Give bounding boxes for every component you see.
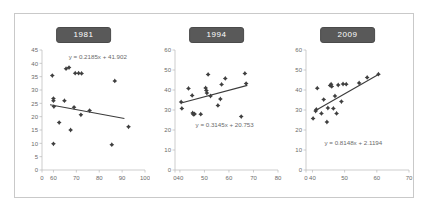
regression-equation-label: y = 0.2185x + 41.902: [69, 53, 128, 60]
data-point-marker: [179, 106, 184, 111]
data-point-marker: [204, 91, 209, 96]
chart-panel-2009: 2009 0102030405060040506070y = 0.8148x +…: [281, 14, 414, 199]
data-point-marker: [219, 82, 224, 87]
x-tick-label: 70: [73, 175, 80, 181]
trend-line: [181, 85, 247, 103]
y-tick-label: 60: [295, 47, 302, 53]
chart-title-badge: 1981: [56, 27, 112, 43]
x-tick-label: 90: [119, 175, 126, 181]
data-point-marker: [57, 120, 62, 125]
trend-line: [50, 105, 124, 119]
data-point-marker: [198, 112, 203, 117]
data-point-marker: [334, 111, 339, 116]
data-point-marker: [218, 97, 223, 102]
y-tick-label: 40: [295, 87, 302, 93]
regression-equation-label: y = 0.8148x + 2.1194: [325, 139, 383, 146]
x-tick-label: 70: [406, 175, 413, 181]
data-point-marker: [315, 86, 320, 91]
x-tick-label: 60: [50, 175, 57, 181]
data-point-marker: [331, 106, 336, 111]
data-point-marker: [50, 73, 55, 78]
y-tick-label: 20: [31, 114, 38, 120]
plot-svg-1994: 010203040506004050607080y = 0.3145x + 20…: [150, 44, 283, 194]
y-tick-label: 0: [168, 167, 172, 173]
y-tick-label: 40: [164, 87, 171, 93]
data-point-marker: [126, 124, 131, 129]
data-point-marker: [319, 111, 324, 116]
x-tick-label: 60: [373, 175, 380, 181]
data-point-marker: [109, 142, 114, 147]
figure-frame: 1981 051015202530354045060708090100y = 0…: [14, 13, 414, 198]
y-tick-label: 45: [31, 47, 38, 53]
y-tick-label: 30: [164, 107, 171, 113]
y-tick-label: 15: [31, 127, 38, 133]
y-tick-label: 0: [299, 167, 303, 173]
data-point-marker: [62, 98, 67, 103]
data-point-marker: [79, 112, 84, 117]
data-point-marker: [311, 116, 316, 121]
trend-line: [317, 74, 378, 109]
regression-equation-label: y = 0.3145x + 20.753: [196, 121, 255, 128]
data-point-marker: [51, 141, 56, 146]
scatter-plot-2009: 0102030405060040506070y = 0.8148x + 2.11…: [281, 44, 414, 199]
y-tick-label: 40: [31, 61, 38, 67]
data-point-marker: [68, 128, 73, 133]
data-point-marker: [336, 83, 341, 88]
chart-panel-1994: 1994 010203040506004050607080y = 0.3145x…: [150, 14, 283, 199]
y-tick-label: 35: [31, 74, 38, 80]
y-tick-label: 0: [35, 167, 39, 173]
x-tick-label: 0: [304, 175, 308, 181]
x-tick-label: 50: [201, 175, 208, 181]
x-tick-label: 50: [341, 175, 348, 181]
data-point-marker: [344, 82, 349, 87]
y-tick-label: 5: [35, 154, 39, 160]
y-tick-label: 10: [31, 141, 38, 147]
y-tick-label: 10: [164, 147, 171, 153]
data-point-marker: [216, 103, 221, 108]
data-point-marker: [239, 114, 244, 119]
data-point-marker: [242, 71, 247, 76]
plot-svg-2009: 0102030405060040506070y = 0.8148x + 2.11…: [281, 44, 414, 194]
chart-panel-1981: 1981 051015202530354045060708090100y = 0…: [17, 14, 150, 199]
scatter-plot-1981: 051015202530354045060708090100y = 0.2185…: [17, 44, 150, 199]
data-point-marker: [223, 76, 228, 81]
y-tick-label: 30: [31, 87, 38, 93]
data-point-marker: [179, 100, 184, 105]
data-point-marker: [244, 81, 249, 86]
x-tick-label: 0: [40, 175, 44, 181]
scatter-plot-1994: 010203040506004050607080y = 0.3145x + 20…: [150, 44, 283, 199]
plot-svg-1981: 051015202530354045060708090100y = 0.2185…: [17, 44, 150, 194]
x-tick-label: 100: [140, 175, 150, 181]
data-point-marker: [333, 94, 338, 99]
y-tick-label: 10: [295, 147, 302, 153]
data-point-marker: [325, 106, 330, 111]
data-point-marker: [206, 72, 211, 77]
y-tick-label: 20: [164, 127, 171, 133]
y-tick-label: 20: [295, 127, 302, 133]
data-point-marker: [112, 79, 117, 84]
chart-title-badge: 1994: [189, 27, 245, 43]
data-point-marker: [339, 99, 344, 104]
data-point-marker: [365, 75, 370, 80]
y-tick-label: 25: [31, 101, 38, 107]
y-tick-label: 60: [164, 47, 171, 53]
data-point-marker: [325, 120, 330, 125]
x-tick-label: 80: [96, 175, 103, 181]
data-point-marker: [186, 86, 191, 91]
x-tick-label: 40: [309, 175, 316, 181]
data-point-marker: [79, 71, 84, 76]
x-tick-label: 40: [177, 175, 184, 181]
y-tick-label: 50: [164, 67, 171, 73]
data-point-marker: [321, 97, 326, 102]
chart-title-badge: 2009: [320, 27, 376, 43]
y-tick-label: 30: [295, 107, 302, 113]
data-point-marker: [190, 93, 195, 98]
x-tick-label: 60: [226, 175, 233, 181]
x-tick-label: 70: [250, 175, 257, 181]
y-tick-label: 50: [295, 67, 302, 73]
